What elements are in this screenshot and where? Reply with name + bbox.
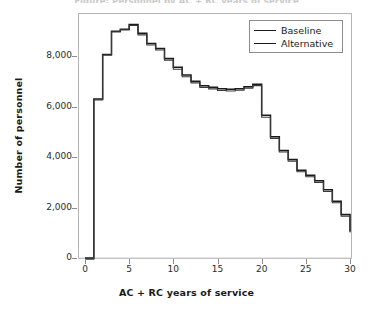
legend-label-baseline: Baseline <box>281 26 321 36</box>
y-tick-label: 8,000 <box>46 51 72 60</box>
x-tick-label: 5 <box>114 265 144 274</box>
legend-line-icon-baseline <box>254 30 276 31</box>
series-line-baseline <box>85 24 350 258</box>
x-tick-label: 25 <box>291 265 321 274</box>
y-axis-title: Number of personnel <box>13 56 24 216</box>
chart-legend: Baseline Alternative <box>249 20 343 53</box>
x-axis-title: AC + RC years of service <box>0 287 373 298</box>
legend-label-alternative: Alternative <box>281 39 333 49</box>
y-tick-mark <box>72 56 77 57</box>
legend-item-baseline[interactable]: Baseline <box>254 24 338 37</box>
chart-figure: Figure: Personnel by AC + RC years of se… <box>0 0 373 318</box>
y-tick-label: 2,000 <box>46 203 72 212</box>
y-tick-label: 4,000 <box>46 152 72 161</box>
y-tick-mark <box>72 208 77 209</box>
y-tick-mark <box>72 157 77 158</box>
y-tick-mark <box>72 107 77 108</box>
series-group <box>78 24 352 259</box>
legend-line-icon-alternative <box>254 43 276 44</box>
x-tick-label: 15 <box>203 265 233 274</box>
x-tick-label: 20 <box>247 265 277 274</box>
y-axis-tick-labels: 02,0004,0006,0008,000 <box>34 0 72 318</box>
x-tick-label: 30 <box>335 265 365 274</box>
y-tick-label: 6,000 <box>46 102 72 111</box>
y-tick-mark <box>72 258 77 259</box>
series-line-alternative <box>85 26 350 260</box>
x-tick-label: 10 <box>158 265 188 274</box>
legend-item-alternative[interactable]: Alternative <box>254 37 338 50</box>
x-tick-label: 0 <box>70 265 100 274</box>
